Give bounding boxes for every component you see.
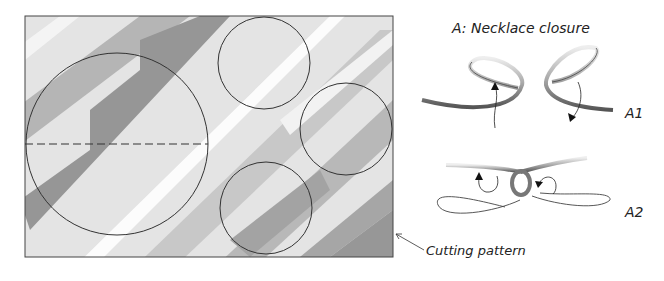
step-a2-label: A2 bbox=[625, 204, 643, 220]
step-a2-drawing bbox=[437, 158, 610, 213]
callout-arrow-icon bbox=[396, 234, 424, 250]
step-a1-drawing bbox=[422, 47, 613, 128]
diagram-title: A: Necklace closure bbox=[452, 20, 590, 36]
cutting-pattern-label: Cutting pattern bbox=[426, 243, 526, 258]
illustration bbox=[0, 0, 664, 281]
cutting-pattern-sheet bbox=[0, 16, 393, 281]
step-a1-label: A1 bbox=[625, 105, 643, 121]
